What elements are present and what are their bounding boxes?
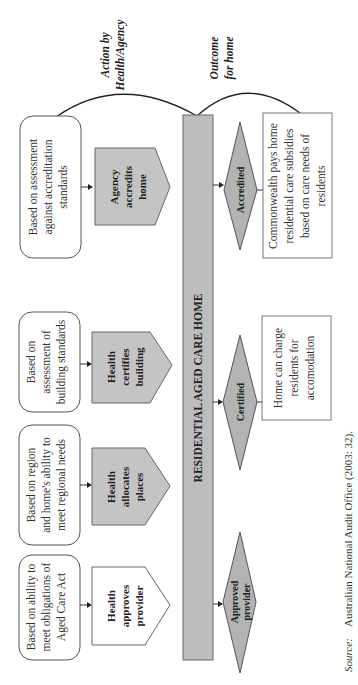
svg-text:building standards: building standards — [55, 319, 68, 404]
result-home-can-charge: Home can charge residents for accomodati… — [262, 316, 331, 420]
criteria-box-aged-care-act: Based on ability to meet obligations of … — [19, 555, 80, 660]
svg-text:Approved: Approved — [229, 580, 240, 623]
svg-text:Health: Health — [105, 351, 117, 383]
source-text: Australian National Audit Office (2003: … — [342, 431, 355, 627]
svg-text:meet obligations of: meet obligations of — [40, 562, 53, 651]
svg-text:assessment of: assessment of — [40, 330, 52, 394]
header-action-line-1: Action by — [99, 32, 112, 79]
action-health-allocates-places: Health allocates places — [92, 448, 170, 525]
header-outcome-line-1: Outcome — [208, 37, 220, 80]
svg-text:and home's ability to: and home's ability to — [40, 437, 53, 533]
svg-text:Home can charge: Home can charge — [272, 328, 285, 408]
svg-text:Based on ability to: Based on ability to — [25, 563, 38, 650]
header-outcome-line-2: for home — [223, 36, 236, 79]
svg-text:allocates: allocates — [119, 466, 131, 507]
source-note: Source: Australian National Audit Office… — [342, 431, 355, 672]
svg-text:against accreditation: against accreditation — [42, 139, 55, 234]
svg-text:based on care needs of: based on care needs of — [299, 134, 311, 238]
outcome-certified: Certified — [223, 335, 257, 470]
outcome-approved-provider: Approved provider — [223, 532, 256, 673]
svg-text:Based on: Based on — [25, 341, 37, 384]
svg-text:certifies: certifies — [119, 348, 131, 386]
svg-text:provider: provider — [133, 586, 145, 627]
svg-text:approves: approves — [119, 584, 131, 627]
svg-text:Accredited: Accredited — [235, 166, 246, 213]
svg-text:Health: Health — [105, 590, 117, 622]
svg-text:building: building — [133, 347, 145, 387]
criteria-box-regional-needs: Based on region and home's ability to me… — [19, 425, 80, 545]
svg-text:Aged Care Act: Aged Care Act — [55, 572, 68, 641]
central-bar-label: RESIDENTIAL AGED CARE HOME — [192, 293, 204, 482]
action-bracket-arc — [56, 94, 197, 117]
header-action: Action by Health/Agency — [99, 19, 127, 92]
svg-text:meet regional needs: meet regional needs — [55, 438, 68, 530]
svg-text:Health: Health — [105, 471, 117, 503]
svg-text:Based on assessment: Based on assessment — [27, 138, 39, 235]
action-health-certifies-building: Health certifies building — [92, 332, 172, 403]
svg-text:standards: standards — [57, 165, 69, 209]
svg-text:residential care subsidies: residential care subsidies — [283, 128, 295, 243]
criteria-connectors — [80, 184, 93, 608]
bar-connectors — [213, 182, 224, 607]
header-outcome: Outcome for home — [208, 36, 236, 79]
outcome-accredited: Accredited — [224, 122, 257, 250]
svg-text:places: places — [133, 472, 145, 501]
diagram-canvas: Action by Health/Agency Outcome for home… — [0, 0, 358, 685]
svg-text:accredits: accredits — [122, 165, 134, 208]
source-label: Source: — [342, 638, 354, 672]
criteria-box-accreditation-standards: Based on assessment against accreditatio… — [20, 116, 81, 258]
header-action-line-2: Health/Agency — [114, 19, 127, 92]
svg-text:Certified: Certified — [235, 382, 246, 421]
result-commonwealth-subsidies: Commonwealth pays home residential care … — [263, 113, 332, 258]
svg-text:Based on region: Based on region — [25, 447, 38, 522]
svg-text:residents for: residents for — [288, 339, 300, 396]
svg-text:Agency: Agency — [108, 169, 120, 204]
svg-text:residents: residents — [315, 165, 327, 206]
svg-text:Commonwealth pays home: Commonwealth pays home — [267, 123, 280, 249]
criteria-box-building-standards: Based on assessment of building standard… — [19, 312, 80, 412]
action-agency-accredits-home: Agency accredits home — [95, 148, 170, 225]
svg-text:provider: provider — [241, 583, 252, 621]
svg-text:home: home — [136, 174, 148, 200]
svg-text:accomodation: accomodation — [304, 336, 316, 401]
action-health-approves-provider: Health approves provider — [92, 567, 170, 645]
